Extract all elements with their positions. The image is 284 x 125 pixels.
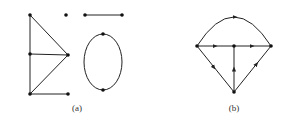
- vertex: [195, 44, 199, 48]
- arc-edge: [197, 17, 271, 46]
- subfigure-a-label: (a): [72, 103, 82, 113]
- edge: [197, 46, 234, 92]
- vertex: [28, 92, 32, 96]
- edge: [234, 46, 271, 92]
- vertex: [101, 32, 105, 36]
- vertex: [232, 90, 236, 94]
- arrow-icon: [255, 64, 257, 66]
- edge: [30, 54, 68, 55]
- vertex: [120, 13, 124, 17]
- edge: [30, 55, 68, 94]
- subfigure-b-label: (b): [229, 103, 240, 113]
- subfigure-a: [30, 15, 122, 94]
- subfigure-b: [197, 17, 271, 92]
- vertex: [64, 13, 68, 17]
- vertex: [28, 52, 32, 56]
- vertex: [232, 44, 236, 48]
- vertex: [28, 13, 32, 17]
- vertex: [269, 44, 273, 48]
- edge: [30, 15, 68, 55]
- vertex: [83, 13, 87, 17]
- vertex: [101, 88, 105, 92]
- loop-edges: [84, 34, 122, 90]
- graph-figure: (a) (b): [0, 0, 284, 125]
- vertex: [66, 92, 70, 96]
- vertex: [66, 53, 70, 57]
